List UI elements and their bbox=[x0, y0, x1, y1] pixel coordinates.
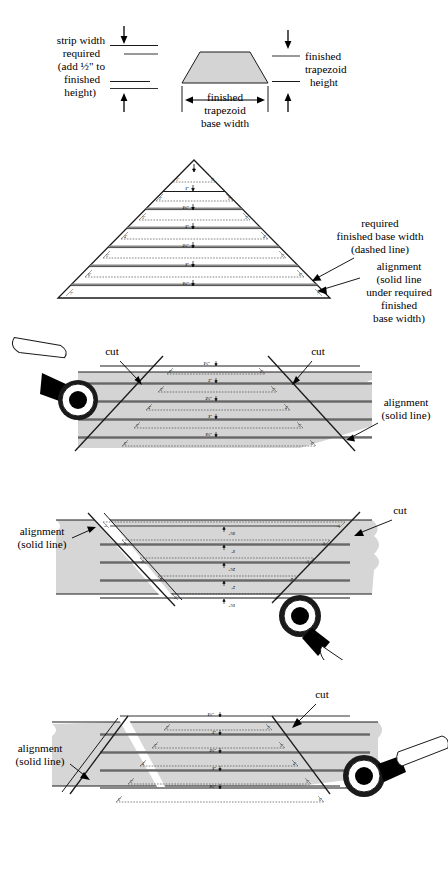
svg-text:7": 7" bbox=[103, 523, 107, 527]
svg-text:trapezoid: trapezoid bbox=[305, 63, 347, 75]
svg-text:2": 2" bbox=[228, 197, 232, 201]
figure1-base-label: finished trapezoid base width bbox=[201, 91, 250, 129]
svg-text:2": 2" bbox=[166, 726, 170, 730]
svg-text:2": 2" bbox=[169, 370, 173, 374]
svg-text:6": 6" bbox=[311, 442, 315, 446]
figure1-left-label: strip width required (add ½" to finished… bbox=[57, 34, 106, 99]
figure-fabric-strip-first-cut: 2" 2" 3" 3" 4" 4" 5" 5" 6" 6" 1½" 2" 2½"… bbox=[0, 330, 448, 470]
svg-text:cut: cut bbox=[315, 688, 330, 700]
svg-text:2½": 2½" bbox=[210, 749, 217, 753]
svg-text:3": 3" bbox=[231, 549, 235, 553]
svg-text:finished: finished bbox=[207, 91, 243, 103]
svg-text:cut: cut bbox=[311, 345, 326, 357]
svg-text:strip width: strip width bbox=[57, 34, 106, 46]
figure-triangle-strip-layout: 1" 1" 2" 2" 3" 3" 4" 4" 5" 5" 6" 6" 7" 7… bbox=[0, 150, 448, 330]
svg-text:3": 3" bbox=[212, 767, 216, 771]
svg-text:6": 6" bbox=[299, 273, 303, 277]
svg-text:4": 4" bbox=[293, 762, 297, 766]
finished-height-arrow-down bbox=[285, 30, 292, 49]
svg-text:5": 5" bbox=[281, 254, 285, 258]
finished-height-rules bbox=[272, 56, 300, 82]
svg-text:2": 2" bbox=[231, 585, 235, 589]
svg-text:2": 2" bbox=[159, 197, 163, 201]
svg-text:base width): base width) bbox=[373, 312, 425, 325]
svg-text:3": 3" bbox=[245, 216, 249, 220]
triangle-side-measurements: 1" 1" 2" 2" 3" 3" 4" 4" 5" 5" 6" 6" 7" 7… bbox=[70, 178, 321, 296]
triangle-notch-marks bbox=[66, 175, 322, 296]
triangle-center-measurements: 1" 1½" 2" 2½" 3" 3½" bbox=[183, 185, 195, 286]
svg-text:2": 2" bbox=[212, 731, 216, 735]
svg-text:(add ½" to: (add ½" to bbox=[58, 60, 106, 73]
svg-text:finished base width: finished base width bbox=[337, 230, 424, 242]
svg-text:7": 7" bbox=[336, 523, 340, 527]
svg-text:3½": 3½" bbox=[229, 531, 236, 535]
svg-text:alignment: alignment bbox=[377, 260, 423, 272]
svg-text:5": 5" bbox=[130, 780, 134, 784]
svg-text:(solid line): (solid line) bbox=[18, 538, 67, 551]
svg-text:under required: under required bbox=[366, 286, 432, 298]
figure-strip-width-reference: strip width required (add ½" to finished… bbox=[0, 0, 448, 150]
figure-fabric-strip-final-cut: 2" 2" 3" 3" 4" 4" 5" 5" 6" 6" 1½" 2" 2½"… bbox=[0, 660, 448, 860]
svg-text:5": 5" bbox=[136, 424, 140, 428]
svg-text:4": 4" bbox=[124, 235, 128, 239]
svg-text:1": 1" bbox=[211, 178, 215, 182]
svg-text:(solid line): (solid line) bbox=[382, 409, 431, 422]
svg-text:required: required bbox=[361, 217, 399, 229]
svg-text:(solid line: (solid line bbox=[376, 273, 421, 286]
svg-text:height: height bbox=[310, 76, 339, 88]
svg-text:2½": 2½" bbox=[206, 397, 213, 401]
svg-text:4": 4" bbox=[158, 577, 162, 581]
svg-text:3½": 3½" bbox=[183, 282, 190, 286]
svg-text:finished: finished bbox=[381, 299, 417, 311]
triangle-apex-arrow bbox=[193, 164, 196, 172]
strip-width-arrow-up bbox=[121, 93, 128, 112]
svg-text:4": 4" bbox=[263, 235, 267, 239]
svg-text:1½": 1½" bbox=[204, 362, 211, 366]
svg-text:3": 3" bbox=[272, 388, 276, 392]
svg-text:3": 3" bbox=[274, 595, 278, 599]
svg-text:5": 5" bbox=[305, 559, 309, 563]
svg-text:alignment: alignment bbox=[18, 742, 64, 754]
svg-text:6": 6" bbox=[118, 798, 122, 802]
svg-text:base width: base width bbox=[201, 117, 250, 129]
trapezoid-shape bbox=[182, 52, 268, 83]
svg-text:5": 5" bbox=[306, 780, 310, 784]
svg-text:5": 5" bbox=[106, 254, 110, 258]
svg-text:finished: finished bbox=[64, 73, 100, 85]
svg-text:2": 2" bbox=[208, 379, 212, 383]
svg-text:3": 3" bbox=[142, 216, 146, 220]
svg-text:(dashed line): (dashed line) bbox=[351, 243, 409, 256]
svg-text:1": 1" bbox=[185, 187, 189, 191]
figure-fabric-strip-flipped-cut: 7" 7" 6" 6" 5" 5" 4" 4" 3" 3" 3½" 3" 2½"… bbox=[0, 470, 448, 660]
svg-text:1½": 1½" bbox=[229, 603, 236, 607]
svg-text:cut: cut bbox=[393, 504, 408, 516]
svg-text:3½": 3½" bbox=[206, 433, 213, 437]
rotary-cutter-icon bbox=[279, 595, 369, 660]
svg-text:7": 7" bbox=[70, 292, 74, 296]
svg-text:3": 3" bbox=[185, 263, 189, 267]
svg-text:2": 2" bbox=[185, 225, 189, 229]
svg-text:6": 6" bbox=[88, 273, 92, 277]
svg-text:cut: cut bbox=[105, 345, 120, 357]
svg-text:height): height) bbox=[64, 86, 96, 99]
svg-text:required: required bbox=[63, 47, 101, 59]
svg-text:3": 3" bbox=[160, 388, 164, 392]
svg-text:1": 1" bbox=[176, 178, 180, 182]
svg-text:2": 2" bbox=[260, 370, 264, 374]
svg-text:alignment: alignment bbox=[20, 525, 66, 537]
svg-text:6": 6" bbox=[122, 541, 126, 545]
svg-text:4": 4" bbox=[148, 406, 152, 410]
svg-text:2½": 2½" bbox=[229, 567, 236, 571]
svg-text:3½": 3½" bbox=[210, 785, 217, 789]
svg-text:5": 5" bbox=[140, 559, 144, 563]
svg-text:1½": 1½" bbox=[183, 206, 190, 210]
svg-text:3": 3" bbox=[173, 595, 177, 599]
svg-text:4": 4" bbox=[285, 406, 289, 410]
svg-text:6": 6" bbox=[321, 541, 325, 545]
svg-text:6": 6" bbox=[319, 798, 323, 802]
svg-text:3": 3" bbox=[154, 744, 158, 748]
svg-text:3": 3" bbox=[208, 415, 212, 419]
svg-text:alignment: alignment bbox=[384, 396, 430, 408]
svg-text:4": 4" bbox=[142, 762, 146, 766]
figure1-right-label: finished trapezoid height bbox=[305, 50, 347, 88]
